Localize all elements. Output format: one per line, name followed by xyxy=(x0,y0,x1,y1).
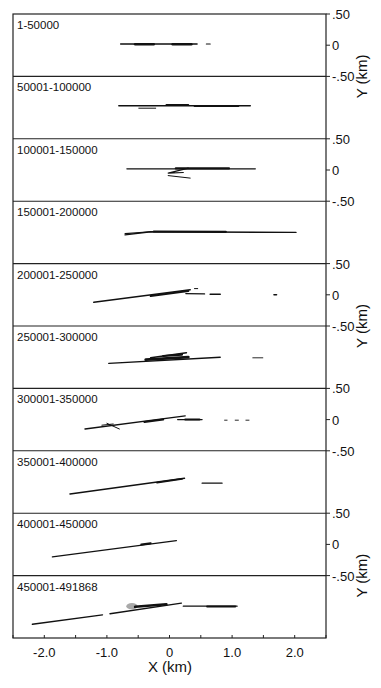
y-axis-label: Y (km) xyxy=(353,554,370,598)
y-axis-label: Y (km) xyxy=(353,54,370,98)
y-axis-label: Y (km) xyxy=(353,304,370,348)
figure-canvas: 1-5000050001-100000100001-150000150001-2… xyxy=(0,0,381,688)
y-tick-label: -.50 xyxy=(332,69,354,84)
fault-trace-segment xyxy=(157,479,182,483)
panel-label: 150001-200000 xyxy=(17,206,98,218)
panel-label: 400001-450000 xyxy=(17,518,98,530)
fault-trace-segment xyxy=(168,176,190,179)
y-tick-label: .50 xyxy=(332,381,350,396)
y-tick-label: 0 xyxy=(332,413,339,428)
panel-label: 1-50000 xyxy=(17,19,59,31)
y-tick-label: 0 xyxy=(332,288,339,303)
x-tick-label: 1.0 xyxy=(223,645,241,660)
panel-4: 150001-200000 xyxy=(17,206,296,235)
y-tick-label: .50 xyxy=(332,7,350,22)
y-tick-label: -.50 xyxy=(332,569,354,584)
panel-label: 450001-491868 xyxy=(17,581,98,593)
fault-trace-segment xyxy=(94,290,190,303)
panel-1: 1-50000 xyxy=(17,19,210,44)
y-tick-label: -.50 xyxy=(332,444,354,459)
panel-6: 250001-300000 xyxy=(17,331,263,363)
fault-trace-segment xyxy=(141,543,150,544)
panel-7: 300001-350000 xyxy=(17,393,249,429)
panel-label: 50001-100000 xyxy=(17,81,91,93)
y-tick-label: 0 xyxy=(332,537,339,552)
y-tick-label: 0 xyxy=(332,38,339,53)
panel-label: 250001-300000 xyxy=(17,331,98,343)
y-tick-label: .50 xyxy=(332,257,350,272)
y-tick-label: -.50 xyxy=(332,194,354,209)
fault-trace-segment xyxy=(145,420,164,423)
y-tick-label: .50 xyxy=(332,506,350,521)
panel-2: 50001-100000 xyxy=(17,81,250,108)
panel-9: 400001-450000 xyxy=(17,518,176,557)
x-tick-label: -2.0 xyxy=(33,645,55,660)
x-tick-label: 2.0 xyxy=(286,645,304,660)
y-tick-label: .50 xyxy=(332,132,350,147)
y-tick-label: 0 xyxy=(332,163,339,178)
panel-10: 450001-491868 xyxy=(17,581,237,625)
panel-label: 200001-250000 xyxy=(17,269,98,281)
fault-trace-segment xyxy=(32,615,102,624)
fault-trace-segment xyxy=(163,355,182,356)
panels-layer: 1-5000050001-100000100001-150000150001-2… xyxy=(17,19,296,624)
panel-8: 350001-400000 xyxy=(17,456,222,494)
panel-label: 100001-150000 xyxy=(17,144,98,156)
panel-3: 100001-150000 xyxy=(17,144,255,178)
panel-5: 200001-250000 xyxy=(17,269,277,303)
panel-label: 300001-350000 xyxy=(17,393,98,405)
fault-trace-segment xyxy=(52,541,176,557)
x-axis-label: X (km) xyxy=(148,658,192,675)
panel-label: 350001-400000 xyxy=(17,456,98,468)
fault-trace-segment xyxy=(85,416,185,429)
x-tick-label: -1.0 xyxy=(96,645,118,660)
y-tick-label: -.50 xyxy=(332,319,354,334)
